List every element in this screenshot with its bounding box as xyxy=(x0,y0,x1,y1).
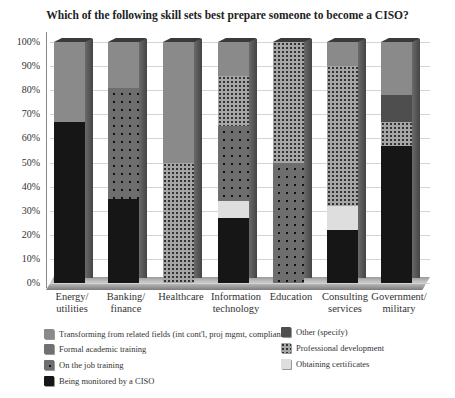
bar-side-face xyxy=(249,39,257,278)
x-tick-label: Government/military xyxy=(367,291,431,315)
gridline xyxy=(50,283,430,284)
bar-segment-ciso xyxy=(108,199,139,283)
y-tick-label: 40% xyxy=(0,181,40,192)
legend-label: Formal academic training xyxy=(59,344,146,354)
bar-information-technology xyxy=(218,42,249,283)
bar-side-face xyxy=(194,39,202,278)
y-tick-label: 60% xyxy=(0,132,40,143)
legend-item-ciso: Being monitored by a CISO xyxy=(44,376,154,386)
legend-swatch-prof xyxy=(281,343,291,353)
bar-segment-transform xyxy=(381,42,412,95)
legend-item-ojt: On the job training xyxy=(44,360,123,370)
bar-side-face xyxy=(85,39,93,278)
y-tick-label: 10% xyxy=(0,253,40,264)
y-axis-line xyxy=(46,32,47,288)
y-tick-label: 20% xyxy=(0,229,40,240)
legend-swatch-ciso xyxy=(44,376,54,386)
bar-segment-prof xyxy=(327,66,358,206)
bar-segment-ojt xyxy=(218,126,249,201)
x-tick-line2: military xyxy=(367,303,431,315)
legend-swatch-ojt xyxy=(44,360,54,370)
legend-swatch-transform xyxy=(44,329,54,339)
bar-segment-prof xyxy=(381,122,412,146)
bar-segment-cert xyxy=(218,201,249,218)
legend-label: Other (specify) xyxy=(296,327,348,337)
y-tick-label: 30% xyxy=(0,205,40,216)
bar-segment-prof xyxy=(273,42,304,163)
bar-segment-prof xyxy=(163,163,194,284)
legend-label: Being monitored by a CISO xyxy=(59,376,154,386)
bar-segment-ojt xyxy=(273,163,304,284)
legend-swatch-formal xyxy=(44,344,54,354)
y-tick-label: 50% xyxy=(0,157,40,168)
x-tick-line2: technology xyxy=(204,303,268,315)
legend-label: Transforming from related fields (int co… xyxy=(59,329,291,339)
bar-education xyxy=(273,42,304,283)
bar-side-face xyxy=(139,39,147,278)
bar-energy-utilities xyxy=(54,42,85,283)
y-tick-label: 100% xyxy=(0,36,40,47)
legend-swatch-cert xyxy=(281,359,291,369)
bar-segment-ciso xyxy=(218,218,249,283)
legend-swatch-other xyxy=(281,327,291,337)
bar-side-face xyxy=(412,39,420,278)
legend-item-formal: Formal academic training xyxy=(44,344,146,354)
bar-segment-ciso xyxy=(327,230,358,283)
y-tick-label: 0% xyxy=(0,277,40,288)
legend-item-cert: Obtaining certificates xyxy=(281,359,369,369)
x-tick-line2: finance xyxy=(94,303,158,315)
bar-segment-transform xyxy=(54,42,85,122)
legend-label: Professional development xyxy=(296,343,384,353)
y-tick-label: 80% xyxy=(0,84,40,95)
bar-side-face xyxy=(304,39,312,278)
y-tick-label: 70% xyxy=(0,108,40,119)
bar-segment-transform xyxy=(108,42,139,88)
legend-label: Obtaining certificates xyxy=(296,359,369,369)
bar-segment-transform xyxy=(218,42,249,76)
bar-banking-finance xyxy=(108,42,139,283)
legend-label: On the job training xyxy=(59,360,123,370)
bar-consulting-services xyxy=(327,42,358,283)
bar-segment-prof xyxy=(218,76,249,127)
bar-healthcare xyxy=(163,42,194,283)
bar-segment-other xyxy=(381,95,412,122)
bar-segment-ojt xyxy=(108,88,139,199)
bar-segment-ciso xyxy=(54,122,85,283)
bar-segment-cert xyxy=(327,206,358,230)
bar-side-face xyxy=(358,39,366,278)
bar-segment-transform xyxy=(327,42,358,66)
x-tick-line1: Government/ xyxy=(367,291,431,303)
bar-government-military xyxy=(381,42,412,283)
legend-item-other: Other (specify) xyxy=(281,327,348,337)
bar-segment-ciso xyxy=(381,146,412,283)
bar-segment-transform xyxy=(163,42,194,163)
y-tick-label: 90% xyxy=(0,60,40,71)
plot-area: 100%90%80%70%60%50%40%30%20%10%0%Energy/… xyxy=(0,0,455,320)
legend-item-prof: Professional development xyxy=(281,343,384,353)
legend-item-transform: Transforming from related fields (int co… xyxy=(44,329,291,339)
